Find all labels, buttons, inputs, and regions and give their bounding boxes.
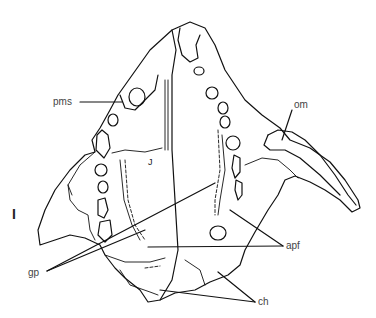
label-gp: gp	[28, 268, 39, 278]
gp-leader-1	[47, 183, 215, 271]
posterior-palatal-foramen	[210, 226, 226, 240]
label-ch: ch	[258, 297, 269, 307]
inner-mark-j: J	[148, 157, 153, 167]
apf-leader-2	[230, 210, 283, 246]
ch-leader-1	[160, 290, 255, 302]
skull-outer-outline	[38, 22, 360, 302]
label-pms: pms	[53, 97, 72, 107]
apf-leader-1	[148, 246, 283, 247]
label-apf: apf	[286, 241, 300, 251]
panel-label: I	[12, 206, 16, 222]
label-om: om	[294, 100, 308, 110]
gp-leader-2	[47, 230, 145, 271]
skull-diagram: I J pms om apf gp ch	[0, 0, 376, 318]
skull-outline-drawing	[0, 0, 376, 318]
